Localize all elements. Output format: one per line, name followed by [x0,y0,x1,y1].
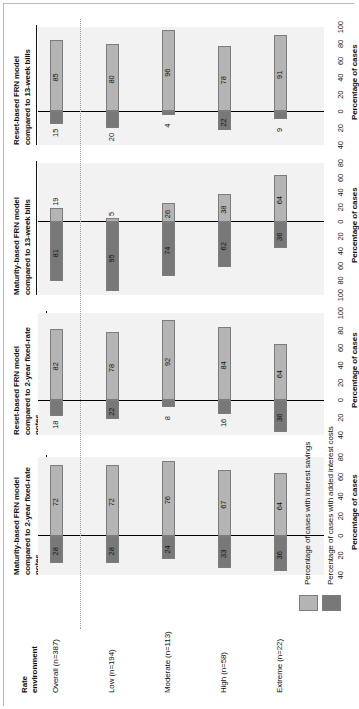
panel-title-2-line2: compared to 2-year fixed-rate [23,327,32,435]
panel-title-1-line2: compared to 2-year fixed-rate [23,467,32,575]
bar-value-savings: 76 [163,496,172,504]
bar-value-savings: 92 [163,358,172,366]
bar-value-savings: 72 [107,498,116,506]
bar-value-costs: 36 [275,414,284,422]
panel-title-4: Reset-based FRN modelcompared to 13-week… [12,0,33,145]
bar-value-costs: 16 [219,419,228,427]
axis-tick: 20 [336,124,345,132]
bar-value-costs: 9 [275,128,284,132]
rotated-figure-wrapper: Rate environment Overall (n=387) Low (n=… [4,4,355,707]
bar-value-costs: 95 [107,254,116,262]
axis-tick: 40 [336,189,345,197]
row-label-high: High (n=58) [219,652,228,693]
axis-title-2: Percentage of cases [350,333,359,408]
bar-value-costs: 36 [275,551,284,559]
axis-tick: 80 [336,159,345,167]
bar-value-savings: 96 [163,69,172,77]
axis-title-4: Percentage of cases [350,45,359,120]
bar-value-savings: 91 [275,71,284,79]
row-label-overall: Overall (n=387) [51,639,60,693]
bar-costs [162,111,175,114]
rate-environment-title-line2: environment [30,646,39,693]
bar-value-costs: 28 [51,547,60,555]
bar-value-costs: 36 [275,233,284,241]
bar-value-savings: 82 [51,362,60,370]
axis-tick: 100 [336,21,345,33]
bar-value-costs: 74 [163,247,172,255]
legend-label-savings: Percentage of cases with interest saving… [303,442,312,585]
bar-value-costs: 22 [107,408,116,416]
legend-swatch-savings [299,595,318,611]
bar-value-costs: 20 [107,133,116,141]
bar-value-savings: 85 [51,73,60,81]
axis-tick: 0 [336,109,345,113]
bar-value-savings: 64 [275,370,284,378]
bar-costs [162,400,175,407]
axis-tick: 20 [336,203,345,211]
chart-panel-4: Reset-based FRN modelcompared to 13-week… [4,0,355,145]
axis-tick: 60 [336,57,345,65]
axis-tick: 20 [336,233,345,241]
panel-title-4-line2: compared to 13-week bills [23,49,32,145]
bar-value-costs: 28 [107,547,116,555]
panel-title-3: Maturity-based FRN modelcompared to 13-w… [12,133,33,295]
chart-panel-3: Maturity-based FRN modelcompared to 13-w… [4,133,355,295]
rate-environment-title: Rate environment [20,646,40,693]
bar-value-savings: 5 [107,212,116,216]
panel-title-4-line1: Reset-based FRN model [12,56,21,145]
bar-value-savings: 64 [275,502,284,510]
figure-page-frame: Rate environment Overall (n=387) Low (n=… [3,3,354,706]
row-label-low: Low (n=194) [107,649,116,693]
legend-label-costs: Percentage of cases with added interest … [326,426,335,585]
row-label-extreme: Extreme (n=22) [275,639,284,693]
bar-costs [50,400,63,416]
panel-title-1-line1: Maturity-based FRN model [12,477,21,575]
bar-value-costs: 22 [219,118,228,126]
panel-title-3-line2: compared to 13-week bills [23,199,32,295]
bar-costs [274,111,287,119]
bar-costs [218,400,231,414]
bar-costs [50,111,63,124]
axis-tick: 60 [336,174,345,182]
axis-tick: 20 [336,91,345,99]
bar-value-savings: 78 [107,364,116,372]
axis-tick: 0 [336,220,345,224]
panel-title-2-line1: Reset-based FRN model [12,346,21,435]
panel-title-rule-3 [36,161,37,295]
bar-value-costs: 4 [163,124,172,128]
bar-value-savings: 72 [51,498,60,506]
axis-tick: 40 [336,141,345,149]
bar-savings [50,208,63,222]
bar-value-savings: 64 [275,196,284,204]
bar-value-savings: 19 [51,198,60,206]
axis-title-1: Percentage of cases [350,475,359,550]
bar-value-costs: 24 [163,545,172,553]
rate-environment-title-line1: Rate [20,676,29,693]
bar-value-costs: 62 [219,242,228,250]
bar-value-costs: 18 [51,421,60,429]
bar-value-savings: 78 [219,76,228,84]
axis-tick: 40 [336,74,345,82]
bar-value-costs: 81 [51,249,60,257]
bar-value-savings: 26 [163,210,172,218]
axis-tick: 40 [336,247,345,255]
axis-tick: 80 [336,40,345,48]
panel-title-3-line1: Maturity-based FRN model [12,197,21,295]
legend-swatch-costs [322,595,341,611]
bar-value-costs: 15 [51,129,60,137]
bar-value-costs: 33 [219,550,228,558]
bar-value-savings: 38 [219,206,228,214]
panel-title-rule-4 [36,25,37,145]
axis-tick: 60 [336,262,345,270]
axis-title-3: Percentage of cases [350,188,359,263]
bar-value-savings: 84 [219,361,228,369]
overall-group-divider [80,19,81,629]
bar-costs [106,111,119,128]
bar-value-costs: 8 [163,416,172,420]
chart-legend: Percentage of cases with interest saving… [297,281,345,611]
bar-value-savings: 80 [107,75,116,83]
figure-canvas: Rate environment Overall (n=387) Low (n=… [4,4,355,707]
row-label-moderate: Moderate (n=113) [163,631,172,693]
bar-value-savings: 67 [219,501,228,509]
